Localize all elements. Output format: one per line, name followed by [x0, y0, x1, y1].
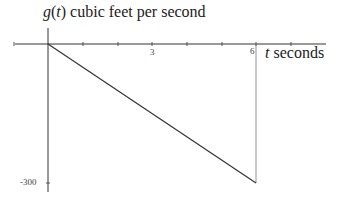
y-axis-label: g(t) cubic feet per second	[43, 3, 206, 21]
y-tick-label-neg300: -300	[20, 177, 37, 187]
x-axis-units: seconds	[269, 44, 324, 61]
chart: g(t) cubic feet per second t seconds 3 6…	[0, 0, 342, 204]
x-tick-label-3: 3	[150, 47, 155, 57]
y-axis-units: cubic feet per second	[66, 3, 205, 20]
x-tick-label-6: 6	[250, 46, 255, 56]
y-axis-func: g	[43, 3, 51, 20]
series-line-g	[48, 44, 256, 183]
chart-canvas	[0, 0, 342, 204]
x-axis-label: t seconds	[265, 44, 324, 62]
